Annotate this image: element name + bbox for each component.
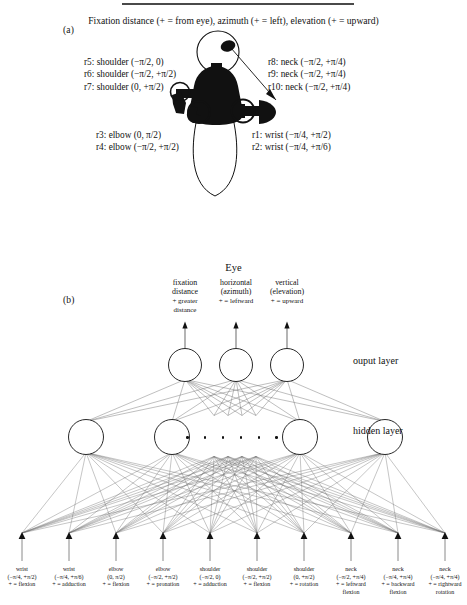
edge-hidden-output	[287, 380, 385, 422]
input-joint-direction: + = adduction	[185, 581, 235, 589]
edge-input-hidden	[22, 457, 242, 534]
input-label-shoulder-6: shoulder(0, +π/2)+ = rotation	[279, 566, 329, 589]
input-joint-range: (0, +π/2)	[279, 574, 329, 582]
edge-hidden-output	[172, 380, 287, 422]
ellipsis-dot	[222, 436, 225, 439]
edge-input-hidden	[210, 457, 242, 534]
edges-hidden-to-output	[86, 380, 385, 422]
input-joint-direction: + = flexion	[232, 581, 282, 589]
input-joint-direction: + = rightward	[420, 581, 467, 589]
edge-input-hidden	[351, 453, 385, 534]
edge-hidden-output	[287, 380, 300, 422]
ellipsis-dot	[204, 436, 207, 439]
input-label-elbow-3: elbow(−π/2, +π/2)+ = pronation	[138, 566, 188, 589]
input-joint-direction: + = flexion	[91, 581, 141, 589]
input-joint-name: neck	[326, 566, 376, 574]
ellipsis-dot	[240, 436, 243, 439]
input-label-wrist-0: wrist(−π/4, +π/2)+ = flexion	[0, 566, 47, 589]
input-label-elbow-2: elbow(0, π/2)+ = flexion	[91, 566, 141, 589]
input-arrow-head-7	[348, 532, 355, 539]
output-node-0	[169, 349, 202, 382]
input-arrow-head-4	[207, 532, 214, 539]
input-joint-name: elbow	[91, 566, 141, 574]
input-joint-direction: + = rotation	[279, 581, 329, 589]
output-layer-nodes	[169, 349, 304, 382]
input-label-neck-7: neck(−π/2, +π/4)+ = leftwardflexion	[326, 566, 376, 596]
edge-hidden-output	[86, 380, 287, 422]
input-label-shoulder-4: shoulder(−π/2, 0)+ = adduction	[185, 566, 235, 589]
output-layer-label: ouput layer	[353, 355, 398, 366]
edge-input-hidden	[116, 457, 228, 534]
edge-input-hidden	[69, 457, 228, 534]
edge-input-hidden	[210, 457, 214, 534]
edge-input-hidden	[22, 453, 172, 534]
input-joint-range: (−π/4, +π/2)	[0, 574, 47, 582]
edge-input-hidden	[163, 457, 228, 534]
input-joint-direction: + = pronation	[138, 581, 188, 589]
input-joint-direction-cont: rotation	[420, 589, 467, 597]
input-arrow-head-3	[160, 532, 167, 539]
edge-input-hidden	[300, 453, 398, 534]
edge-input-hidden	[228, 457, 351, 534]
edge-input-hidden	[228, 457, 304, 534]
input-label-shoulder-5: shoulder(−π/2, +π/2)+ = flexion	[232, 566, 282, 589]
hidden-node-2	[283, 420, 318, 455]
edges-input-to-hidden	[22, 453, 445, 534]
edge-input-hidden	[116, 457, 214, 534]
output-arrow-head-0	[182, 322, 187, 329]
edge-hidden-output	[172, 380, 185, 422]
edge-input-hidden	[256, 457, 257, 534]
input-arrow-head-8	[395, 532, 402, 539]
input-joint-name: neck	[420, 566, 467, 574]
input-joint-range: (−π/2, +π/4)	[326, 574, 376, 582]
ellipsis-dot	[258, 436, 261, 439]
input-label-wrist-1: wrist(−π/4, +π/6)+ = adduction	[44, 566, 94, 589]
edge-hidden-output	[185, 380, 256, 416]
output-arrow-head-2	[284, 322, 289, 329]
output-node-1	[220, 349, 253, 382]
figure-page: (a) (b) Fixation distance (+ = from eye)…	[0, 0, 467, 605]
edge-input-hidden	[300, 453, 445, 534]
input-joint-name: shoulder	[185, 566, 235, 574]
input-joint-range: (−π/2, +π/2)	[232, 574, 282, 582]
edge-hidden-output	[242, 380, 287, 416]
edge-input-hidden	[22, 457, 214, 534]
hidden-layer-ellipsis	[186, 436, 278, 439]
input-joint-direction: + = backward	[373, 581, 423, 589]
input-joint-range: (−π/2, 0)	[185, 574, 235, 582]
edge-input-hidden	[214, 457, 445, 534]
input-joint-name: neck	[373, 566, 423, 574]
input-label-neck-8: neck(−π/4, +π/4)+ = backwardflexion	[373, 566, 423, 596]
edge-hidden-output	[236, 380, 300, 422]
input-joint-direction-cont: flexion	[373, 589, 423, 597]
input-joint-direction-cont: flexion	[326, 589, 376, 597]
output-node-2	[271, 349, 304, 382]
edge-input-hidden	[242, 457, 351, 534]
input-arrow-head-9	[442, 532, 449, 539]
edge-input-hidden	[22, 457, 228, 534]
edge-hidden-output	[236, 380, 385, 422]
edge-input-hidden	[22, 457, 256, 534]
edge-input-hidden	[69, 453, 86, 534]
edge-hidden-output	[86, 380, 185, 422]
input-joint-name: shoulder	[232, 566, 282, 574]
edge-input-hidden	[116, 453, 300, 534]
edge-input-hidden	[300, 453, 351, 534]
input-arrow-head-0	[19, 532, 26, 539]
input-joint-direction: + = leftward	[326, 581, 376, 589]
ellipsis-dot	[186, 436, 189, 439]
hidden-node-1	[155, 420, 190, 455]
input-arrow-head-1	[66, 532, 73, 539]
input-joint-name: shoulder	[279, 566, 329, 574]
input-joint-name: wrist	[44, 566, 94, 574]
input-joint-range: (−π/4, +π/4)	[420, 574, 467, 582]
edge-input-hidden	[86, 453, 210, 534]
input-joint-direction: + = adduction	[44, 581, 94, 589]
hidden-layer-label: hidden layer	[353, 425, 403, 436]
input-joint-range: (0, π/2)	[91, 574, 141, 582]
input-joint-range: (−π/4, +π/6)	[44, 574, 94, 582]
edge-input-hidden	[163, 457, 242, 534]
edge-hidden-output	[185, 380, 242, 416]
edge-input-hidden	[242, 457, 398, 534]
input-arrow-head-6	[301, 532, 308, 539]
